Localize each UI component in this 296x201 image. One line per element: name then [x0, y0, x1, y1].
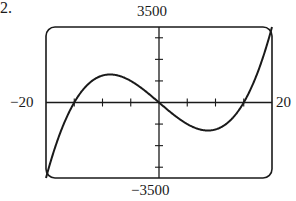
graph-canvas	[0, 0, 296, 201]
